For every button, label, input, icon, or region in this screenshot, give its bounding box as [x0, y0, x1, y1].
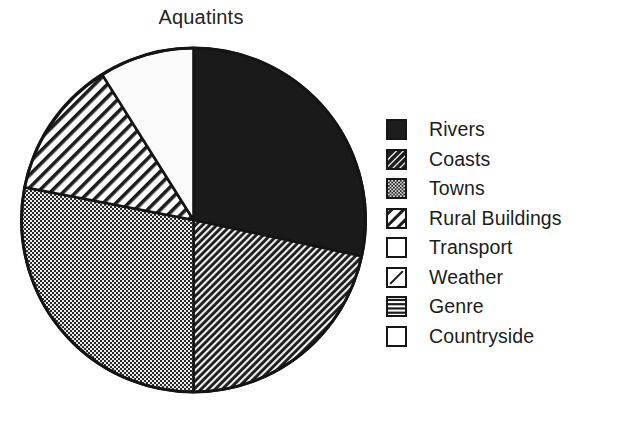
legend-item-genre[interactable]: Genre: [386, 292, 616, 322]
legend-swatch-bold-diagonal-hatch-icon: [386, 208, 407, 229]
legend-label-towns: Towns: [429, 178, 485, 199]
chart-title: Aquatints: [106, 6, 296, 29]
legend-label-transport: Transport: [429, 237, 513, 258]
chart-legend: Rivers Coasts: [386, 115, 616, 351]
pie-svg: [18, 44, 370, 399]
legend-label-rural-buildings: Rural Buildings: [429, 208, 562, 229]
legend-item-rivers[interactable]: Rivers: [386, 115, 616, 145]
pie-slice-towns: [22, 187, 194, 392]
legend-item-towns[interactable]: Towns: [386, 174, 616, 204]
legend-swatch-blank-white-icon: [386, 237, 407, 258]
pie-graphic: [18, 44, 370, 399]
legend-label-weather: Weather: [429, 267, 503, 288]
legend-label-rivers: Rivers: [429, 119, 485, 140]
legend-item-countryside[interactable]: Countryside: [386, 322, 616, 352]
pie-chart-figure: Aquatints: [0, 0, 620, 421]
legend-swatch-fine-diagonal-hatch-icon: [386, 149, 407, 170]
legend-label-genre: Genre: [429, 296, 484, 317]
legend-swatch-horizontal-lines-icon: [386, 296, 407, 317]
legend-label-coasts: Coasts: [429, 149, 490, 170]
legend-swatch-single-slash-icon: [386, 267, 407, 288]
legend-item-coasts[interactable]: Coasts: [386, 145, 616, 175]
legend-item-weather[interactable]: Weather: [386, 263, 616, 293]
legend-item-transport[interactable]: Transport: [386, 233, 616, 263]
legend-item-rural-buildings[interactable]: Rural Buildings: [386, 204, 616, 234]
legend-swatch-blank-white-icon: [386, 326, 407, 347]
legend-swatch-solid-black-icon: [386, 119, 407, 140]
legend-label-countryside: Countryside: [429, 326, 534, 347]
legend-swatch-stipple-dots-icon: [386, 178, 407, 199]
